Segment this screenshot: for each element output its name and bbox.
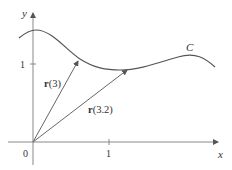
vector-label-r3-2: r(3.2) — [88, 104, 113, 116]
y-tick-label: 1 — [20, 59, 25, 70]
vector-label-r3: r(3) — [44, 78, 61, 90]
origin-label: 0 — [23, 148, 28, 159]
vector-function-diagram: y x 0 1 1 C r(3) r(3.2) — [0, 0, 232, 170]
y-axis-label: y — [21, 7, 27, 19]
x-axis-label: x — [217, 148, 223, 160]
vector-r3 — [33, 61, 78, 142]
curve-label: C — [186, 41, 194, 53]
x-tick-label: 1 — [106, 148, 111, 159]
